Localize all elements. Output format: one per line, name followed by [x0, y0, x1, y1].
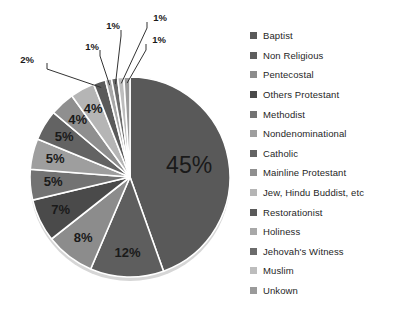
legend-item-label: Muslim — [263, 265, 294, 276]
legend-item[interactable]: Muslim — [250, 261, 394, 281]
legend-swatch-icon — [250, 91, 257, 98]
legend-item-label: Holiness — [263, 226, 300, 237]
legend-item[interactable]: Holiness — [250, 222, 394, 242]
legend-swatch-icon — [250, 248, 257, 255]
legend-swatch-icon — [250, 150, 257, 157]
legend-item[interactable]: Jehovah's Witness — [250, 242, 394, 262]
legend-item[interactable]: Pentecostal — [250, 65, 394, 85]
legend-swatch-icon — [250, 71, 257, 78]
legend-swatch-icon — [250, 267, 257, 274]
legend-item-label: Baptist — [263, 30, 293, 41]
legend-item-label: Jew, Hindu Buddist, etc — [263, 187, 364, 198]
pie-slice-label: 4% — [84, 101, 103, 116]
pie-slice-label: 1% — [106, 20, 120, 31]
legend-swatch-icon — [250, 32, 257, 39]
legend-item[interactable]: Restorationist — [250, 202, 394, 222]
legend-item[interactable]: Methodist — [250, 104, 394, 124]
legend-item-label: Others Protestant — [263, 89, 339, 100]
legend-item[interactable]: Non Religious — [250, 46, 394, 66]
legend-item[interactable]: Unkown — [250, 281, 394, 301]
legend-item-label: Non Religious — [263, 50, 323, 61]
legend-swatch-icon — [250, 228, 257, 235]
legend-swatch-icon — [250, 209, 257, 216]
legend-swatch-icon — [250, 189, 257, 196]
legend-item-label: Unkown — [263, 285, 298, 296]
legend-swatch-icon — [250, 52, 257, 59]
pie-slice-label: 1% — [152, 34, 166, 45]
legend-item[interactable]: Baptist — [250, 26, 394, 46]
chart-legend: BaptistNon ReligiousPentecostalOthers Pr… — [250, 26, 394, 300]
legend-item[interactable]: Others Protestant — [250, 85, 394, 105]
legend-item[interactable]: Catholic — [250, 144, 394, 164]
legend-item-label: Mainline Protestant — [263, 167, 346, 178]
pie-slice-label: 8% — [74, 230, 93, 245]
legend-item-label: Restorationist — [263, 207, 322, 218]
legend-item-label: Catholic — [263, 148, 298, 159]
pie-slice-label: 12% — [115, 245, 141, 260]
legend-item-label: Methodist — [263, 109, 305, 120]
pie-slice-label: 2% — [20, 54, 34, 65]
pie-slice-label: 1% — [153, 12, 167, 23]
pie-slice-label: 7% — [51, 202, 70, 217]
pie-leader-line — [115, 30, 121, 84]
legend-swatch-icon — [250, 130, 257, 137]
pie-chart-plot-area: 45%12%8%7%5%5%5%4%4%2%1%1%1%1% — [0, 0, 240, 310]
pie-slice-label: 5% — [44, 174, 63, 189]
pie-chart-figure: 45%12%8%7%5%5%5%4%4%2%1%1%1%1% BaptistNo… — [0, 0, 394, 310]
pie-leader-line — [121, 22, 147, 83]
pie-slice-label: 1% — [85, 41, 99, 52]
pie-slice-label: 5% — [55, 129, 74, 144]
legend-item[interactable]: Jew, Hindu Buddist, etc — [250, 183, 394, 203]
pie-slice-label: 45% — [166, 152, 212, 178]
pie-chart-svg: 45%12%8%7%5%5%5%4%4%2%1%1%1%1% — [0, 0, 240, 310]
legend-swatch-icon — [250, 169, 257, 176]
legend-item-label: Nondenominational — [263, 128, 347, 139]
legend-item-label: Jehovah's Witness — [263, 246, 344, 257]
legend-swatch-icon — [250, 111, 257, 118]
legend-item[interactable]: Mainline Protestant — [250, 163, 394, 183]
legend-swatch-icon — [250, 287, 257, 294]
legend-item-label: Pentecostal — [263, 69, 314, 80]
pie-slice-label: 5% — [46, 151, 65, 166]
legend-item[interactable]: Nondenominational — [250, 124, 394, 144]
